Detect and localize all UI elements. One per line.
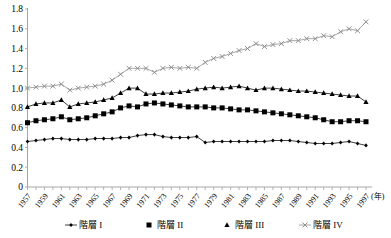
- data-point-marker: [160, 101, 165, 106]
- data-point-marker: [127, 103, 132, 108]
- data-point-marker: [26, 139, 30, 143]
- data-point-marker: [186, 104, 191, 109]
- series-4: [25, 19, 368, 92]
- data-point-marker: [228, 106, 233, 111]
- data-point-marker: [364, 143, 368, 147]
- x-tick-label: 1971: [135, 192, 152, 210]
- data-point-marker: [254, 139, 258, 143]
- data-point-marker: [287, 112, 292, 117]
- series-1: [26, 132, 368, 147]
- data-point-marker: [355, 118, 360, 123]
- data-point-marker: [110, 95, 115, 100]
- y-tick-label: 0.4: [11, 143, 23, 153]
- data-point-marker: [270, 110, 275, 115]
- data-point-marker: [363, 99, 368, 104]
- legend-item-1[interactable]: 階層 I: [65, 220, 102, 230]
- data-point-marker: [245, 46, 250, 51]
- data-point-marker: [364, 119, 369, 124]
- data-point-marker: [143, 101, 148, 106]
- data-point-marker: [246, 139, 250, 143]
- data-point-marker: [194, 104, 199, 109]
- data-series-group: [25, 19, 369, 147]
- data-point-marker: [153, 132, 157, 136]
- data-point-marker: [69, 223, 73, 227]
- x-tick-label: 1969: [118, 192, 135, 210]
- data-point-marker: [110, 136, 114, 140]
- legend-item-2[interactable]: 階層 II: [147, 220, 184, 230]
- data-point-marker: [220, 105, 225, 110]
- data-point-marker: [101, 82, 106, 87]
- data-point-marker: [355, 28, 360, 33]
- data-point-marker: [60, 136, 64, 140]
- data-point-marker: [330, 119, 335, 124]
- legend-item-4[interactable]: 階層 IV: [299, 220, 343, 230]
- data-point-marker: [118, 90, 123, 95]
- data-point-marker: [280, 138, 284, 142]
- data-point-marker: [195, 134, 199, 138]
- x-tick-label: 1997: [355, 192, 372, 210]
- series-line: [28, 22, 367, 90]
- data-point-marker: [127, 135, 131, 139]
- line-chart: 00.20.40.60.81.01.21.41.61.8 19571959196…: [0, 0, 391, 238]
- data-point-marker: [229, 139, 233, 143]
- data-point-marker: [50, 116, 55, 121]
- data-point-marker: [313, 141, 317, 145]
- data-point-marker: [237, 48, 242, 53]
- data-point-marker: [356, 141, 360, 145]
- y-tick-label: 1.0: [11, 84, 23, 94]
- x-tick-label: 1991: [304, 192, 321, 210]
- x-tick-label: 1957: [16, 192, 33, 210]
- data-point-marker: [169, 102, 174, 107]
- data-point-marker: [203, 104, 208, 109]
- data-point-marker: [25, 120, 30, 125]
- data-point-marker: [347, 26, 352, 31]
- x-tick-label: 1967: [101, 192, 118, 210]
- data-point-marker: [33, 118, 38, 123]
- x-tick-label: 1985: [253, 192, 270, 210]
- data-point-marker: [144, 132, 148, 136]
- data-point-marker: [330, 141, 334, 145]
- data-point-marker: [67, 88, 72, 93]
- chart-legend: 階層 I階層 II階層 III階層 IV: [65, 220, 343, 230]
- y-tick-label: 1.6: [11, 24, 23, 34]
- data-point-marker: [313, 115, 318, 120]
- data-point-marker: [211, 84, 216, 89]
- data-point-marker: [76, 116, 81, 121]
- legend-item-3[interactable]: 階層 III: [224, 220, 264, 230]
- data-point-marker: [152, 70, 157, 75]
- data-point-marker: [262, 109, 267, 114]
- data-point-marker: [203, 140, 207, 144]
- x-tick-label: 1975: [168, 192, 185, 210]
- data-point-marker: [212, 139, 216, 143]
- data-point-marker: [177, 103, 182, 108]
- x-tick-label: 1987: [270, 192, 287, 210]
- y-tick-label: 1.2: [11, 64, 23, 74]
- data-point-marker: [136, 133, 140, 137]
- data-point-marker: [304, 114, 309, 119]
- data-point-marker: [237, 107, 242, 112]
- data-point-marker: [297, 139, 301, 143]
- data-point-marker: [288, 138, 292, 142]
- y-tick-label: 0: [18, 182, 23, 192]
- data-point-marker: [364, 19, 369, 24]
- x-tick-label: 1993: [321, 192, 338, 210]
- data-point-marker: [347, 139, 351, 143]
- chart-container: 00.20.40.60.81.01.21.41.61.8 19571959196…: [0, 0, 391, 238]
- data-point-marker: [102, 136, 106, 140]
- data-point-marker: [51, 136, 55, 140]
- x-tick-label: 1979: [202, 192, 219, 210]
- data-point-marker: [279, 111, 284, 116]
- data-point-marker: [254, 41, 259, 46]
- x-axis: 1957195919611963196519671969197119731975…: [16, 187, 385, 210]
- y-tick-label: 1.8: [11, 4, 23, 14]
- x-tick-label: 1961: [50, 192, 67, 210]
- data-point-marker: [347, 118, 352, 123]
- data-point-marker: [322, 141, 326, 145]
- data-point-marker: [211, 105, 216, 110]
- x-axis-unit-label: (年): [371, 191, 385, 201]
- data-point-marker: [187, 135, 191, 139]
- x-tick-label: 1973: [152, 192, 169, 210]
- x-tick-label: 1963: [67, 192, 84, 210]
- data-point-marker: [59, 114, 64, 119]
- data-point-marker: [228, 51, 233, 56]
